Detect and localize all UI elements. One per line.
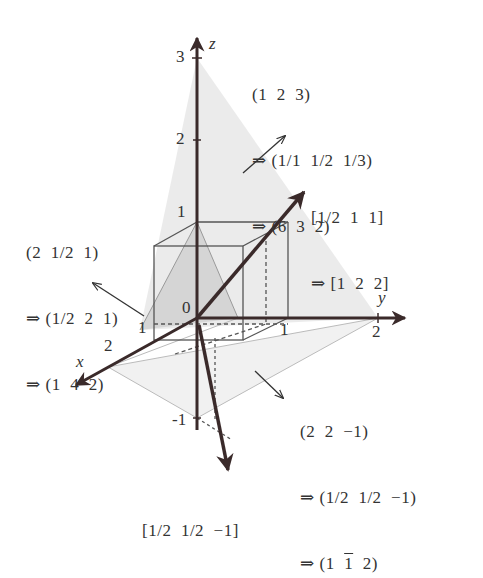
z-axis-label: z: [209, 34, 216, 54]
x-tick-1: 1: [138, 318, 147, 338]
text-part: 2): [353, 554, 378, 573]
overbar-digit: 1: [344, 554, 353, 573]
annotation-line: (2 2 −1): [300, 421, 416, 443]
annotation-plane-1-1bar-2: (2 2 −1) ⇒ (1/2 1/2 −1) ⇒ (1 1 2): [300, 377, 416, 578]
text-part: ⇒ (1: [300, 554, 344, 573]
annotation-line: [1/2 1 1]: [311, 207, 389, 229]
annotation-line: [1/2 1/2 −1]: [142, 520, 239, 542]
annotation-line: (2 1/2 1): [26, 242, 118, 264]
annotation-line: ⇒ (1/2 1/2 −1): [300, 487, 416, 509]
z-tick-2: 2: [176, 129, 185, 149]
miller-indices-diagram: z y x 3 2 1 -1 0 1 2 1 2 (1 2 3) ⇒ (1/1 …: [0, 0, 483, 578]
origin-label: 0: [182, 298, 191, 318]
z-tick-3: 3: [176, 47, 185, 67]
z-tick-1: 1: [177, 202, 186, 222]
annotation-line: (1 2 3): [252, 84, 373, 106]
annotation-line: ⇒ (1/2 2 1): [26, 308, 118, 330]
z-tick-minus-1: -1: [172, 410, 186, 430]
annotation-line: ⇒ [1 2 2]: [311, 273, 389, 295]
annotation-direction-122: [1/2 1 1] ⇒ [1 2 2]: [311, 163, 389, 339]
annotation-direction-1-1bar-2: [1/2 1/2 −1] ⇒ [1 1 −2] ⇒ [1 1 2]: [142, 476, 239, 578]
y-tick-1: 1: [280, 320, 289, 340]
annotation-line: ⇒ (1 4 2): [26, 374, 118, 396]
annotation-line: ⇒ (1 1 2): [300, 553, 416, 575]
annotation-plane-142: (2 1/2 1) ⇒ (1/2 2 1) ⇒ (1 4 2): [26, 198, 118, 440]
